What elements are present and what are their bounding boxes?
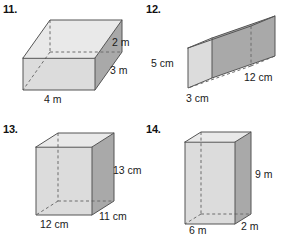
height-label-11: 2 m — [112, 36, 130, 48]
problem-11: 11. 2 m 3 m 4 m — [0, 0, 143, 119]
depth-label-12: 12 cm — [244, 71, 273, 83]
width-label-12: 3 cm — [186, 92, 209, 104]
prism-figure-11 — [0, 0, 143, 119]
problem-14: 14. 9 m 6 m 2 m — [143, 119, 287, 238]
problem-13: 13. 13 cm 11 cm 12 cm — [0, 119, 143, 238]
depth-label-11: 3 m — [110, 64, 128, 76]
depth-label-14: 2 m — [241, 220, 259, 232]
height-label-13: 13 cm — [113, 164, 142, 176]
problem-12: 12. 5 cm 3 cm 12 cm — [143, 0, 287, 119]
width-label-11: 4 m — [44, 93, 62, 105]
height-label-14: 9 m — [255, 168, 273, 180]
front-face — [185, 142, 235, 224]
right-face — [235, 132, 251, 224]
height-label-12: 5 cm — [151, 57, 174, 69]
width-label-13: 12 cm — [40, 218, 69, 230]
width-label-14: 6 m — [189, 224, 207, 236]
front-face — [36, 147, 92, 215]
front-face — [23, 58, 95, 90]
worksheet-page: 11. 2 m 3 m 4 m 12. — [0, 0, 287, 238]
depth-label-13: 11 cm — [99, 210, 127, 222]
